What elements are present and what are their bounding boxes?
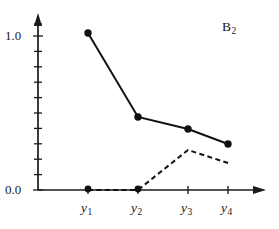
x-axis-label-y1-base: y — [81, 200, 87, 215]
data-point-marker — [85, 186, 92, 193]
x-axis-label-y1-sub: 1 — [88, 207, 93, 217]
y-axis-label-top: 1.0 — [5, 29, 21, 42]
x-axis-label-y3: y3 — [181, 200, 192, 216]
series-solid — [84, 29, 231, 147]
panel-annotation: B2 — [222, 19, 236, 35]
data-point-marker — [84, 29, 91, 36]
data-point-marker — [134, 113, 141, 120]
panel-annotation-sub: 2 — [232, 26, 237, 36]
x-axis-label-y2: y2 — [131, 200, 142, 216]
y-axis — [34, 13, 42, 190]
panel-annotation-base: B — [222, 19, 231, 34]
chart-container: 1.0 0.0 y1 y2 y3 y4 B2 — [0, 0, 279, 229]
x-axis-label-y2-sub: 2 — [138, 207, 143, 217]
series-dashed — [85, 150, 228, 192]
x-axis-label-y2-base: y — [131, 200, 137, 215]
x-axis-label-y3-base: y — [181, 200, 187, 215]
x-axis-label-y3-sub: 3 — [188, 207, 193, 217]
y-axis-label-bottom: 0.0 — [5, 183, 21, 196]
data-point-marker — [135, 186, 142, 193]
data-point-marker — [224, 140, 231, 147]
x-axis-label-y1: y1 — [81, 200, 92, 216]
x-axis-arrow-icon — [253, 186, 266, 194]
x-axis-label-y4-base: y — [221, 200, 227, 215]
x-axis-label-y4: y4 — [221, 200, 232, 216]
x-axis-label-y4-sub: 4 — [228, 207, 233, 217]
x-axis — [38, 186, 266, 194]
line-chart-plot — [0, 0, 279, 229]
data-point-marker — [184, 125, 191, 132]
